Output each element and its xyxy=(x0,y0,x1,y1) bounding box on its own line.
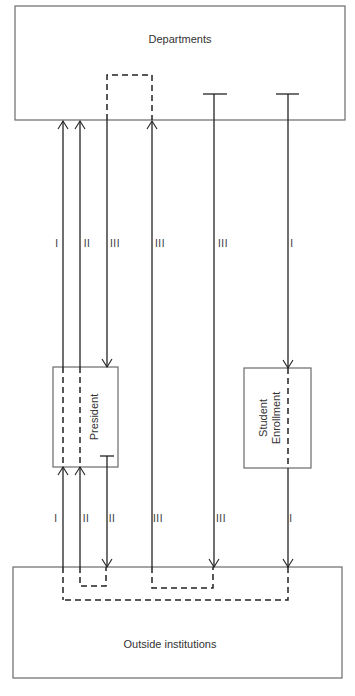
outside-institutions-node: Outside institutions xyxy=(13,567,342,678)
outside-institutions-box xyxy=(13,567,342,678)
flow-III-departments-to-outside xyxy=(203,94,227,567)
flow-label: II xyxy=(84,238,91,249)
flow-label: III xyxy=(110,238,120,249)
lower-flow-labels: I II II III III I xyxy=(54,513,292,524)
flow-label: I xyxy=(289,513,292,524)
flow-label: III xyxy=(218,238,228,249)
student-enrollment-node: Student Enrollment xyxy=(244,368,311,468)
outside-institutions-label: Outside institutions xyxy=(124,638,217,650)
president-label: President xyxy=(88,394,100,440)
flow-label: III xyxy=(216,513,226,524)
flow-label: II xyxy=(83,513,90,524)
flow-label: II xyxy=(109,513,116,524)
departments-label: Departments xyxy=(149,33,212,45)
flow-label: I xyxy=(55,238,58,249)
flow-I-right xyxy=(63,94,299,600)
flow-II-president-to-outside xyxy=(100,456,114,567)
flow-I-left xyxy=(58,121,68,600)
flow-diagram: Departments Outside institutions Preside… xyxy=(0,0,355,696)
flow-label: I xyxy=(54,513,57,524)
student-enrollment-label-line1: Student xyxy=(257,399,269,437)
departments-box xyxy=(15,6,345,120)
upper-flow-labels: I II III III III I xyxy=(55,238,293,249)
flow-label: III xyxy=(155,238,165,249)
flow-label: III xyxy=(153,513,163,524)
flow-II-left xyxy=(75,121,106,586)
student-enrollment-label-line2: Enrollment xyxy=(270,392,282,445)
departments-node: Departments xyxy=(15,6,345,120)
flow-label: I xyxy=(290,238,293,249)
